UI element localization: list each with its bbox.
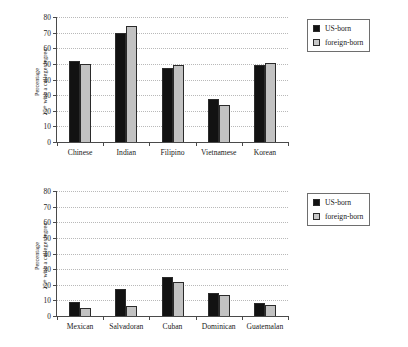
y-tick-label: 70 [44,28,51,37]
x-tick-mark [288,142,289,146]
y-tick-mark [53,17,56,18]
legend-swatch-foreign-born-icon [313,213,320,220]
x-axis-label-filipino: Filipino [149,148,195,157]
plot-area-bottom: 01020304050607080 [56,191,288,316]
bar-us-born[interactable] [69,302,80,316]
y-tick-label: 60 [44,218,51,227]
bar-us-born[interactable] [115,33,126,142]
x-axis-label-mexican: Mexican [57,322,103,331]
y-tick-mark [53,222,56,223]
bar-group [242,191,288,316]
y-tick-label: 20 [44,106,51,115]
bar-foreign-born[interactable] [126,26,137,142]
legend-bottom: US-born foreign-born [307,193,370,226]
bar-group [103,191,149,316]
legend-swatch-us-born-icon [313,25,320,32]
bar-foreign-born[interactable] [265,305,276,316]
x-axis-labels-bottom: MexicanSalvadoranCubanDominicanGuatemala… [57,322,288,331]
y-tick-mark [53,300,56,301]
bar-foreign-born[interactable] [173,65,184,142]
bar-group [103,17,149,142]
bar-group [149,17,195,142]
x-axis-line-bottom [56,316,288,317]
bar-group [57,17,103,142]
y-tick-mark [53,142,56,143]
y-tick-label: 70 [44,202,51,211]
x-tick-mark [103,142,104,146]
y-axis-title-line1: Percentage [33,68,42,96]
y-tick-mark [53,269,56,270]
bar-foreign-born[interactable] [173,282,184,316]
legend-item-us-born: US-born [313,24,363,33]
y-tick-mark [53,316,56,317]
bar-groups [57,191,288,316]
x-axis-label-guatemalan: Guatemalan [242,322,288,331]
legend-swatch-us-born-icon [313,199,320,206]
y-tick-label: 80 [44,187,51,196]
bar-foreign-born[interactable] [80,308,91,316]
legend-label-us-born: US-born [325,24,351,33]
x-tick-mark [288,316,289,320]
y-axis-title-line1: Percentage [33,242,42,270]
legend-item-us-born: US-born [313,198,363,207]
y-tick-mark [53,64,56,65]
y-tick-mark [53,207,56,208]
bar-us-born[interactable] [69,61,80,142]
y-tick-label: 50 [44,59,51,68]
bar-us-born[interactable] [254,303,265,316]
bar-us-born[interactable] [208,99,219,142]
legend-swatch-foreign-born-icon [313,39,320,46]
y-tick-mark [53,238,56,239]
x-axis-labels-top: ChineseIndianFilipinoVietnameseKorean [57,148,288,157]
bar-us-born[interactable] [115,289,126,316]
x-axis-label-vietnamese: Vietnamese [196,148,242,157]
x-tick-mark [196,142,197,146]
x-axis-label-chinese: Chinese [57,148,103,157]
x-tick-mark [242,316,243,320]
y-tick-label: 60 [44,44,51,53]
x-tick-mark [57,316,58,320]
y-tick-label: 30 [44,91,51,100]
y-tick-label: 50 [44,233,51,242]
y-axis-title-top: Percentage 25+ with a college degree [8,16,30,148]
bar-us-born[interactable] [254,65,265,142]
bar-groups [57,17,288,142]
x-axis-label-cuban: Cuban [149,322,195,331]
y-tick-label: 0 [47,312,51,321]
y-tick-mark [53,48,56,49]
x-tick-mark [196,316,197,320]
y-tick-label: 40 [44,249,51,258]
y-tick-mark [53,33,56,34]
legend-label-us-born: US-born [325,198,351,207]
bar-us-born[interactable] [208,293,219,316]
chart-panel-hispanic-origins: Percentage 25+ with a college degree 010… [0,174,408,347]
y-tick-mark [53,254,56,255]
y-tick-label: 0 [47,138,51,147]
bar-foreign-born[interactable] [80,64,91,142]
x-tick-mark [103,316,104,320]
y-tick-label: 40 [44,75,51,84]
figure-two-panel-bar-charts: Percentage 25+ with a college degree 010… [0,0,408,347]
x-tick-mark [242,142,243,146]
bar-us-born[interactable] [162,68,173,142]
legend-top: US-born foreign-born [307,19,370,52]
legend-label-foreign-born: foreign-born [325,212,363,221]
chart-panel-asian-origins: Percentage 25+ with a college degree 010… [0,0,408,173]
y-tick-mark [53,191,56,192]
y-axis-title-bottom: Percentage 25+ with a college degree [8,190,30,322]
x-axis-label-korean: Korean [242,148,288,157]
y-tick-mark [53,126,56,127]
bar-foreign-born[interactable] [126,306,137,316]
x-tick-mark [149,316,150,320]
x-tick-mark [57,142,58,146]
bar-group [57,191,103,316]
bar-foreign-born[interactable] [265,63,276,142]
legend-item-foreign-born: foreign-born [313,212,363,221]
bar-us-born[interactable] [162,277,173,316]
x-axis-line-top [56,142,288,143]
bar-foreign-born[interactable] [219,295,230,316]
y-tick-label: 10 [44,122,51,131]
x-axis-label-dominican: Dominican [196,322,242,331]
bar-foreign-born[interactable] [219,105,230,142]
legend-label-foreign-born: foreign-born [325,38,363,47]
